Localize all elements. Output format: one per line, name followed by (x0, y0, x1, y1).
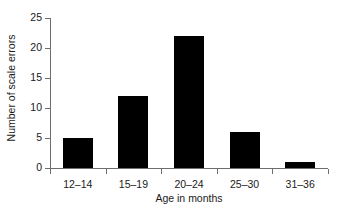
bar (118, 96, 148, 168)
y-tick-label: 20 (30, 41, 42, 54)
y-tick-mark (45, 48, 50, 49)
x-tick-mark (217, 169, 218, 174)
x-tick-label: 25–30 (230, 178, 259, 191)
x-tick-mark (328, 169, 329, 174)
bar-chart-figure: Number of scale errors 0510152025 12–141… (0, 0, 347, 219)
y-tick-mark (45, 78, 50, 79)
y-axis-line (50, 18, 51, 168)
x-tick-label: 12–14 (63, 178, 92, 191)
bar (285, 162, 315, 168)
x-tick-mark (272, 169, 273, 174)
x-tick-mark (106, 169, 107, 174)
y-tick-mark (45, 108, 50, 109)
y-tick-label: 15 (30, 71, 42, 84)
x-tick-mark (50, 169, 51, 174)
x-tick-mark (161, 169, 162, 174)
x-tick-label: 31–36 (286, 178, 315, 191)
y-tick-label: 0 (36, 161, 42, 174)
y-tick-label: 25 (30, 11, 42, 24)
x-tick-label: 20–24 (174, 178, 203, 191)
y-axis-title: Number of scale errors (4, 8, 18, 168)
x-axis-line (50, 168, 328, 169)
bar (230, 132, 260, 168)
y-tick-label: 10 (30, 101, 42, 114)
plot-area: 0510152025 12–1415–1920–2425–3031–36 (50, 18, 328, 168)
bar (63, 138, 93, 168)
y-tick-mark (45, 18, 50, 19)
x-tick-label: 15–19 (119, 178, 148, 191)
x-axis-title: Age in months (50, 192, 328, 205)
y-tick-label: 5 (36, 131, 42, 144)
y-tick-mark (45, 138, 50, 139)
bar (174, 36, 204, 168)
